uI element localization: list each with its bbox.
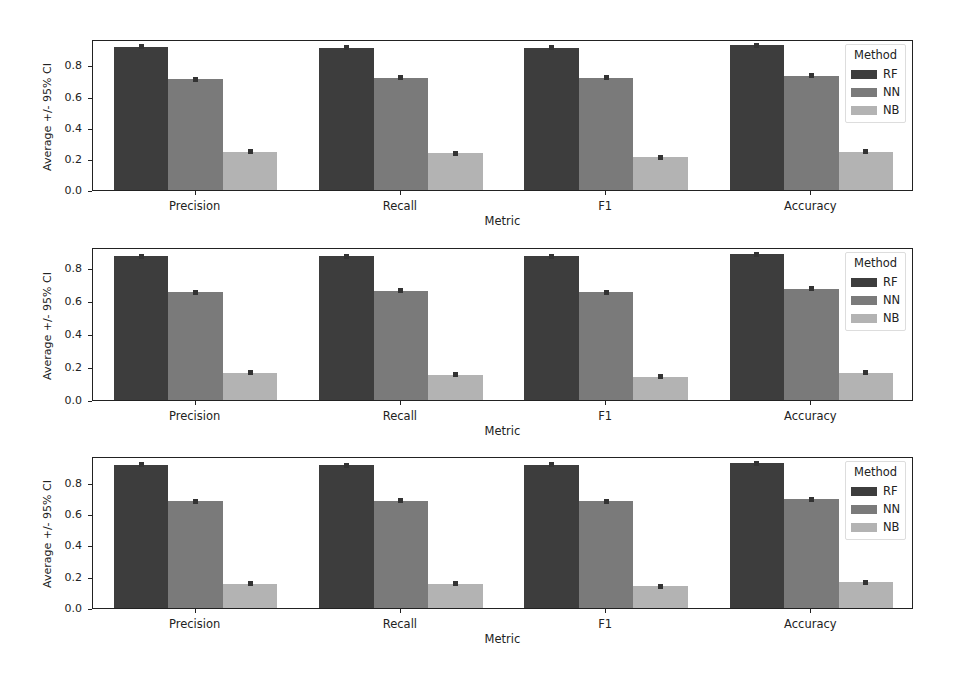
x-tick-mark (195, 609, 196, 613)
x-axis-title: Metric (485, 632, 521, 646)
error-bar (863, 580, 868, 585)
bar-rf-f1 (524, 465, 579, 608)
y-tick-mark (88, 609, 92, 610)
bar-nn-f1 (579, 501, 634, 608)
legend-swatch-rf (851, 487, 877, 496)
legend-item-nb: NB (851, 518, 900, 536)
bar-nn-accuracy (784, 499, 839, 608)
bar-rf-precision (114, 465, 169, 608)
bar-nb-recall (428, 584, 483, 608)
legend: MethodRFNNNB (845, 461, 906, 540)
legend-swatch-nb (851, 523, 877, 532)
legend-title: Method (851, 465, 900, 479)
legend-swatch-nn (851, 505, 877, 514)
bar-nb-accuracy (839, 582, 894, 608)
bar-rf-recall (319, 465, 374, 608)
plot-area (92, 457, 913, 609)
error-bar (549, 462, 554, 467)
x-tick-mark (400, 609, 401, 613)
chart-panel-3: 0.00.20.40.60.8PrecisionRecallF1Accuracy… (0, 0, 958, 679)
error-bar (139, 462, 144, 467)
error-bar (248, 581, 253, 586)
x-tick-label-accuracy: Accuracy (784, 617, 837, 631)
legend-label: NB (883, 520, 900, 534)
bar-nb-f1 (633, 586, 688, 608)
error-bar (809, 497, 814, 502)
error-bar (398, 498, 403, 503)
x-tick-label-recall: Recall (383, 617, 417, 631)
bar-nn-precision (168, 501, 223, 608)
x-tick-mark (605, 609, 606, 613)
y-tick-mark (88, 515, 92, 516)
x-tick-label-precision: Precision (169, 617, 220, 631)
y-tick-mark (88, 578, 92, 579)
bar-nb-precision (223, 584, 278, 608)
x-tick-label-f1: F1 (598, 617, 612, 631)
error-bar (453, 581, 458, 586)
legend-item-nn: NN (851, 500, 900, 518)
error-bar (344, 463, 349, 468)
y-tick-label: 0.0 (42, 602, 82, 615)
error-bar (193, 499, 198, 504)
bar-nn-recall (374, 501, 429, 608)
bar-rf-accuracy (730, 463, 785, 608)
legend-label: RF (883, 484, 898, 498)
y-tick-mark (88, 484, 92, 485)
legend-item-rf: RF (851, 482, 900, 500)
error-bar (658, 584, 663, 589)
error-bar (754, 461, 759, 466)
legend-label: NN (883, 502, 900, 516)
y-tick-mark (88, 546, 92, 547)
x-tick-mark (810, 609, 811, 613)
y-axis-title: Average +/- 95% CI (41, 480, 54, 588)
error-bar (604, 499, 609, 504)
